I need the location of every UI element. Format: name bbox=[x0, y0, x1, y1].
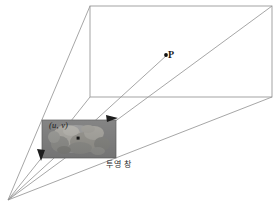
image-point-label: (u, v) bbox=[49, 121, 68, 130]
ray-to-far-top-left bbox=[8, 6, 90, 200]
projection-diagram: P (u, v) 투영 창 bbox=[0, 0, 280, 209]
image-point-dot bbox=[77, 137, 80, 140]
projection-window-label: 투영 창 bbox=[106, 161, 132, 169]
scene-point-label: P bbox=[168, 50, 174, 60]
ray-diagonal-far-corner bbox=[8, 6, 272, 200]
projection-rays bbox=[8, 6, 272, 200]
far-plane-rect bbox=[90, 6, 272, 97]
diagram-canvas bbox=[0, 0, 280, 209]
